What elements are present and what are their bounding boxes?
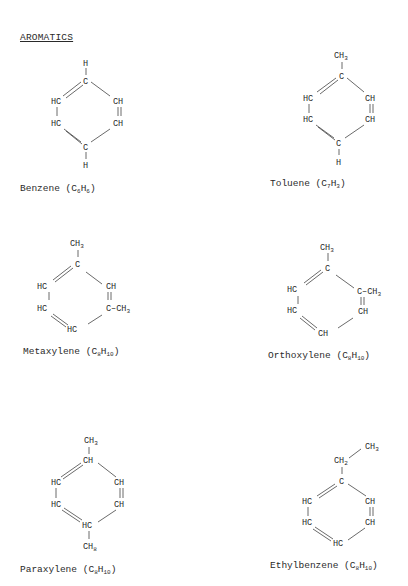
atom: CH	[365, 94, 375, 104]
molecule-ethylbenzene: CH3 CH2 C HC CH HC CH HC Ethylbenzene (C…	[270, 442, 379, 572]
molecule-name: Toluene (C7H3)	[270, 178, 346, 190]
atom: C	[336, 139, 341, 149]
atom: CH3	[334, 51, 348, 62]
atom: C	[83, 143, 88, 153]
atom: HC	[51, 500, 61, 510]
atom: CH	[113, 97, 123, 107]
atom: HC	[333, 539, 343, 549]
atom: CH	[114, 478, 124, 488]
atom: CH	[114, 500, 124, 510]
molecule-name: Benzene (C6H6)	[20, 183, 96, 195]
atom: CH3	[365, 442, 379, 453]
atom: CH3	[84, 436, 98, 447]
molecule-benzene: H C HC CH HC CH C H Benzene (C6H6)	[20, 59, 123, 195]
atom: CH	[365, 115, 375, 125]
atom: HC	[82, 521, 92, 531]
atom: HC	[37, 304, 47, 314]
atom: C	[75, 260, 80, 270]
atom: CH8	[83, 542, 97, 553]
molecule-paraxylene: CH3 CH HC CH HC CH HC CH8 Paraxylene (C8…	[20, 436, 124, 576]
atom: HC	[303, 94, 313, 104]
atom: CH	[365, 497, 375, 507]
atom: HC	[37, 282, 47, 292]
atom: CH	[83, 456, 93, 466]
atom: H	[83, 161, 88, 171]
molecule-metaxylene: CH3 C HC CH HC C–CH3 HC Metaxylene (C8H1…	[23, 239, 130, 358]
atom: C	[339, 477, 344, 487]
atom: HC	[67, 325, 77, 335]
atom: C–CH3	[357, 287, 381, 298]
atom: HC	[287, 285, 297, 295]
atom: CH	[318, 329, 328, 339]
atom: H	[336, 158, 341, 168]
atom: CH3	[70, 239, 84, 250]
atom: C	[339, 72, 344, 82]
molecule-name: Metaxylene (C8H10)	[23, 346, 119, 358]
atom: CH2	[334, 456, 348, 467]
atom: CH	[358, 307, 368, 317]
molecule-name: Orthoxylene (C8H10)	[268, 350, 370, 362]
molecule-orthoxylene: CH3 C HC C–CH3 HC CH CH Orthoxylene (C8H…	[268, 243, 381, 362]
atom: HC	[303, 115, 313, 125]
molecule-name: Paraxylene (C8H10)	[20, 564, 116, 576]
atom: H	[83, 59, 88, 69]
atom: CH	[106, 282, 116, 292]
structures-canvas: H C HC CH HC CH C H Benzene (C6H6) CH3 C…	[0, 0, 408, 586]
atom: C	[83, 77, 88, 87]
atom: C–CH3	[106, 304, 130, 315]
atom: C	[325, 264, 330, 274]
atom: CH	[365, 518, 375, 528]
atom: CH	[113, 119, 123, 129]
molecule-toluene: CH3 C HC CH HC CH C H Toluene (C7H3)	[270, 51, 375, 190]
atom: CH3	[320, 243, 334, 254]
atom: HC	[302, 518, 312, 528]
atom: HC	[287, 306, 297, 316]
atom: HC	[51, 478, 61, 488]
atom: HC	[51, 119, 61, 129]
molecule-name: Ethylbenzene (C8H10)	[270, 560, 378, 572]
atom: HC	[51, 97, 61, 107]
atom: HC	[302, 497, 312, 507]
